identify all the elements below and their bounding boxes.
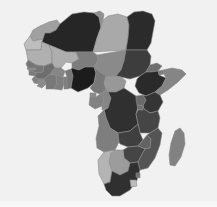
- africa-map-svg: [0, 0, 217, 207]
- country-equatorial-guinea[interactable]: [90, 93, 96, 97]
- country-lesotho[interactable]: [130, 180, 137, 187]
- country-swaziland[interactable]: [136, 173, 140, 178]
- country-rwanda[interactable]: [137, 105, 143, 110]
- country-gambia[interactable]: [27, 68, 36, 70]
- country-egypt[interactable]: [126, 11, 155, 50]
- africa-choropleth-figure: [0, 0, 217, 207]
